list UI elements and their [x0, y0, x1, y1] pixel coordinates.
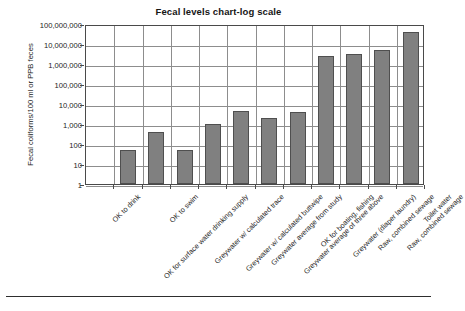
gridline [86, 146, 423, 147]
y-tick-label: 10,000 [2, 101, 82, 110]
bar [148, 132, 164, 184]
gridline [86, 86, 423, 87]
y-tick-label: 10,000,000 [2, 41, 82, 50]
y-tick-mark [80, 145, 84, 146]
category-divider [369, 26, 370, 184]
bar [346, 54, 362, 184]
bar [177, 150, 193, 184]
gridline [86, 126, 423, 127]
gridline [86, 166, 423, 167]
category-divider [114, 26, 115, 184]
y-tick-label: 100,000,000 [2, 21, 82, 30]
y-tick-label: 1,000,000 [2, 61, 82, 70]
y-tick-mark [80, 105, 84, 106]
bar [374, 50, 390, 184]
x-tick-label: OK to swim [167, 192, 199, 224]
bar [233, 111, 249, 184]
bar [120, 150, 136, 184]
y-tick-mark [80, 65, 84, 66]
category-divider [227, 26, 228, 184]
x-tick-label: OK to drink [110, 192, 142, 224]
category-divider [256, 26, 257, 184]
category-divider [143, 26, 144, 184]
y-tick-mark [80, 165, 84, 166]
y-tick-label: 10 [2, 161, 82, 170]
bar [290, 112, 306, 184]
gridline [86, 106, 423, 107]
category-divider [397, 26, 398, 184]
bar [261, 118, 277, 184]
category-divider [312, 26, 313, 184]
y-tick-label: 1,000 [2, 121, 82, 130]
y-tick-mark [80, 85, 84, 86]
y-axis-ticks: 100,000,00010,000,0001,000,000100,00010,… [0, 25, 82, 185]
y-tick-label: 100 [2, 141, 82, 150]
chart-title: Fecal levels chart-log scale [0, 6, 437, 17]
y-tick-mark [80, 125, 84, 126]
y-tick-mark [80, 25, 84, 26]
category-divider [171, 26, 172, 184]
figure-bottom-rule [6, 296, 431, 297]
bar [403, 32, 419, 184]
y-tick-mark [80, 45, 84, 46]
category-divider [284, 26, 285, 184]
gridline [86, 46, 423, 47]
plot-area [85, 25, 424, 185]
category-divider [340, 26, 341, 184]
category-divider [199, 26, 200, 184]
gridline [86, 66, 423, 67]
bar [205, 124, 221, 184]
x-axis-category-labels: OK to drinkOK for surface water drinking… [0, 185, 437, 295]
y-tick-label: 100,000 [2, 81, 82, 90]
bar [318, 56, 334, 184]
